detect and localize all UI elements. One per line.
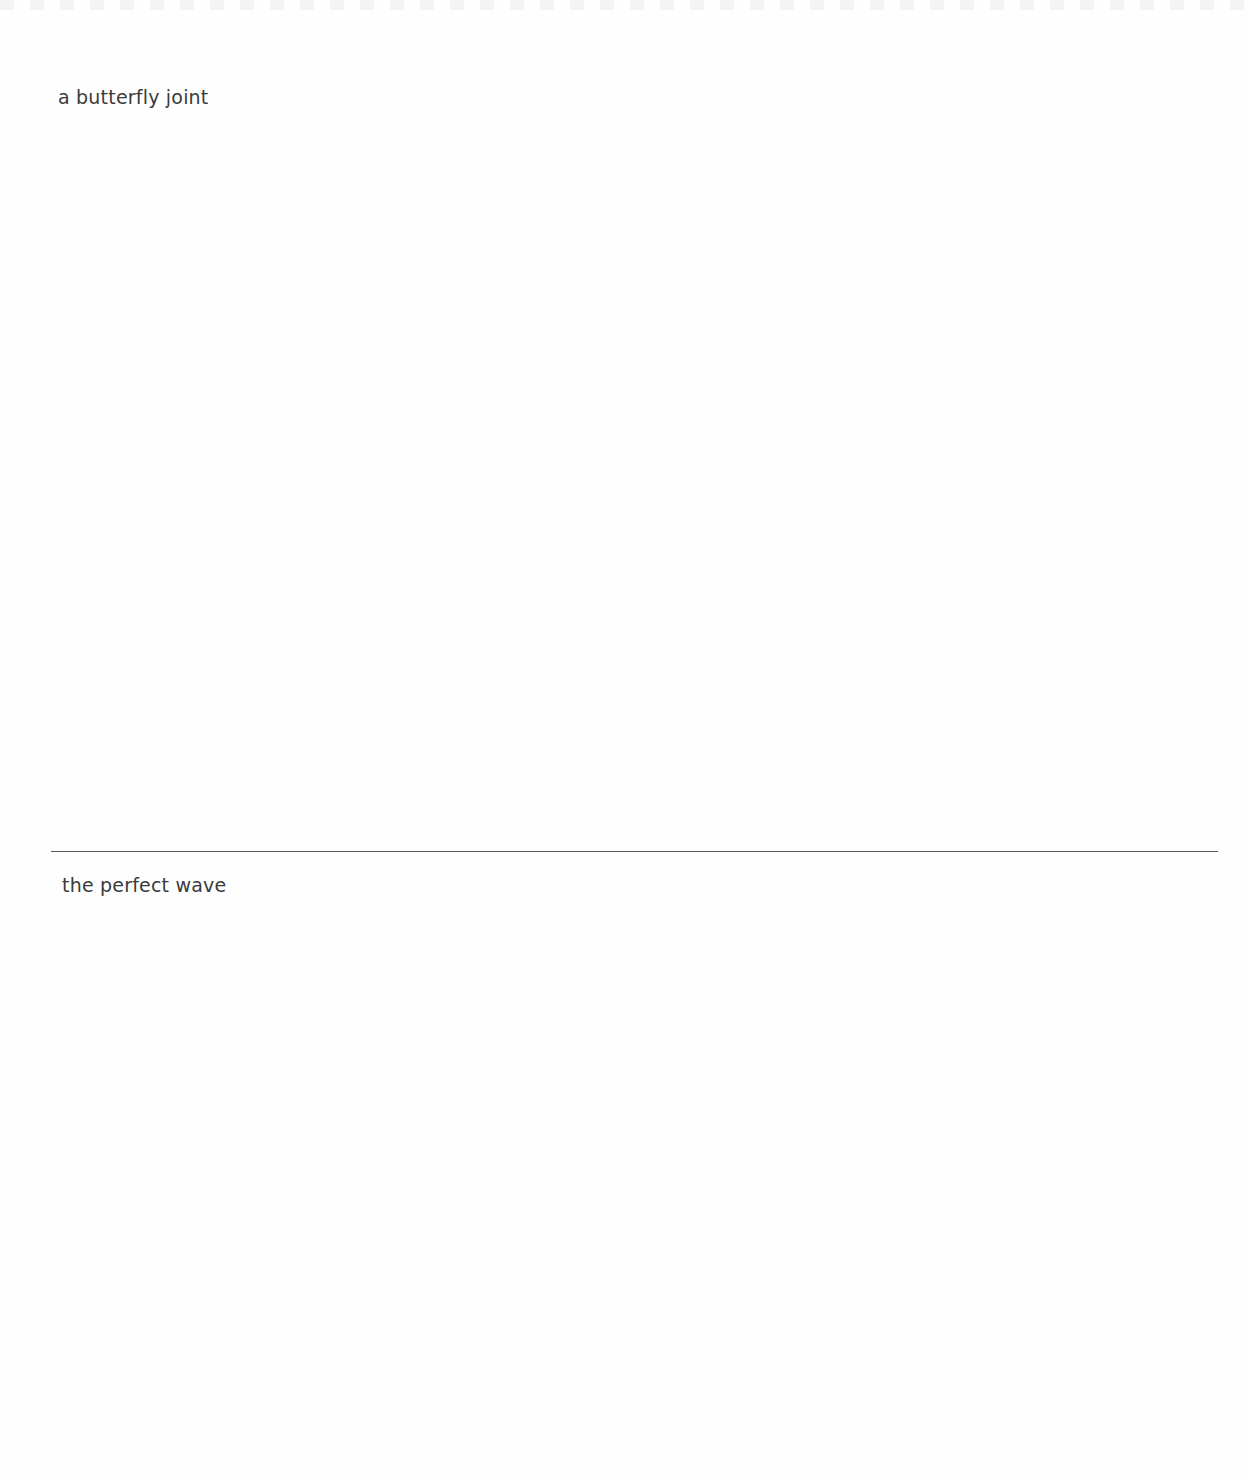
- caption-perfect-wave: the perfect wave: [62, 874, 226, 896]
- section-divider: [51, 851, 1218, 852]
- caption-butterfly-joint: a butterfly joint: [58, 86, 209, 108]
- show-through-artifact: [0, 0, 1249, 10]
